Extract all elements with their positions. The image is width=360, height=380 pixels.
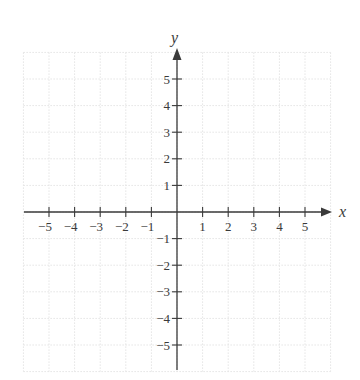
y-tick-label: −3	[156, 284, 170, 299]
y-tick-label: 3	[164, 125, 171, 140]
x-tick-label: 3	[251, 219, 258, 234]
y-tick-label: −1	[156, 231, 170, 246]
coordinate-plane: −5−4−3−2−112345−5−4−3−2−112345 x y	[0, 0, 360, 380]
y-axis-arrow-icon	[173, 48, 182, 60]
y-tick-label: 2	[164, 151, 171, 166]
x-tick-label: −1	[140, 219, 154, 234]
axes	[24, 48, 332, 370]
x-tick-label: 1	[199, 219, 206, 234]
x-tick-label: 4	[276, 219, 283, 234]
y-tick-label: −4	[156, 311, 170, 326]
x-tick-label: 2	[225, 219, 232, 234]
y-tick-label: 1	[164, 178, 171, 193]
x-tick-label: 5	[302, 219, 309, 234]
y-tick-label: −2	[156, 258, 170, 273]
x-axis-label: x	[338, 203, 346, 220]
x-tick-label: −3	[89, 219, 103, 234]
x-tick-label: −5	[38, 219, 52, 234]
x-tick-label: −2	[115, 219, 129, 234]
y-tick-label: 4	[164, 98, 171, 113]
y-tick-label: −5	[156, 338, 170, 353]
y-axis-label: y	[169, 29, 179, 47]
x-tick-label: −4	[64, 219, 78, 234]
y-tick-label: 5	[164, 72, 171, 87]
